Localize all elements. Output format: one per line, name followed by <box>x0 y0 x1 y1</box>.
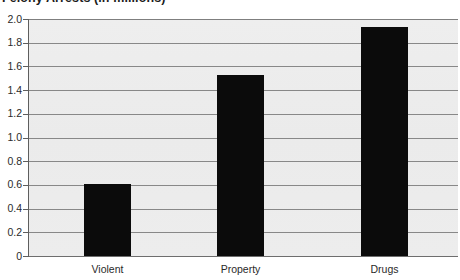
y-axis-tick <box>23 256 29 257</box>
x-axis-line <box>29 256 458 257</box>
y-axis-tick <box>23 90 29 91</box>
y-axis-tick-label: 2.0 <box>0 13 22 25</box>
y-axis-tick <box>23 161 29 162</box>
y-axis-tick <box>23 209 29 210</box>
y-axis-tick-label: 0 <box>0 250 22 262</box>
y-axis-tick <box>23 66 29 67</box>
y-axis-tick-label: 1.2 <box>0 107 22 119</box>
y-axis-tick <box>23 114 29 115</box>
y-axis-tick <box>23 43 29 44</box>
y-axis-tick <box>23 138 29 139</box>
y-axis-tick <box>23 19 29 20</box>
x-axis-category-label: Violent <box>92 263 124 275</box>
y-axis-tick-label: 1.0 <box>0 131 22 143</box>
bar <box>217 75 264 256</box>
gridline <box>29 19 458 20</box>
plot-area <box>29 19 458 256</box>
y-axis-tick <box>23 185 29 186</box>
y-axis-tick-label: 0.8 <box>0 155 22 167</box>
bar <box>84 184 131 256</box>
y-axis-tick-label: 1.4 <box>0 84 22 96</box>
y-axis-tick-label: 0.2 <box>0 226 22 238</box>
y-axis-tick-label: 1.6 <box>0 60 22 72</box>
y-axis-tick-label: 1.8 <box>0 36 22 48</box>
chart-title: Felony Arrests (in millions) <box>2 0 165 5</box>
bar <box>361 27 408 256</box>
bar-chart: Felony Arrests (in millions) 2.01.81.61.… <box>0 0 460 280</box>
y-axis-tick-label: 0.6 <box>0 178 22 190</box>
x-axis-category-label: Drugs <box>370 263 398 275</box>
x-axis-category-label: Property <box>221 263 261 275</box>
y-axis-tick <box>23 232 29 233</box>
y-axis-tick-label: 0.4 <box>0 202 22 214</box>
